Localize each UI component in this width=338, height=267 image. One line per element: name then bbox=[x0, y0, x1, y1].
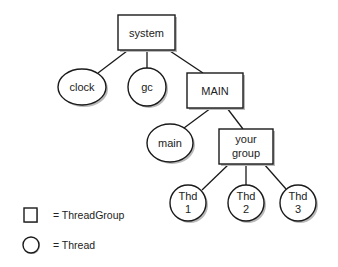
legend-thread-label: = Thread bbox=[53, 239, 95, 251]
legend-item-threadgroup: = ThreadGroup bbox=[24, 208, 124, 223]
node-gc: gc bbox=[128, 68, 168, 108]
legend-item-thread: = Thread bbox=[23, 237, 95, 254]
node-main-thread: main bbox=[147, 124, 195, 164]
thread-group-tree-diagram: system clock gc MAIN main your group Thd… bbox=[0, 0, 338, 267]
edge-system-clock bbox=[98, 51, 127, 73]
square-icon-outline bbox=[24, 208, 37, 222]
node-your-group-line2: group bbox=[232, 147, 260, 159]
node-main-thread-label: main bbox=[158, 137, 182, 149]
legend-threadgroup-label: = ThreadGroup bbox=[53, 209, 124, 221]
node-thd-1: Thd 1 bbox=[170, 185, 208, 223]
node-clock-label: clock bbox=[69, 81, 95, 93]
edge-main-group-main bbox=[184, 108, 211, 128]
edge-main-group-yourgroup bbox=[227, 108, 243, 129]
node-thd-3: Thd 3 bbox=[280, 185, 318, 223]
node-main-group: MAIN bbox=[187, 73, 245, 110]
node-your-group-line1: your bbox=[235, 133, 257, 145]
node-main-group-label: MAIN bbox=[201, 85, 229, 97]
node-clock: clock bbox=[58, 69, 108, 107]
node-thd-3-line2: 3 bbox=[295, 203, 301, 215]
node-system: system bbox=[118, 15, 177, 52]
node-system-label: system bbox=[129, 27, 164, 39]
node-thd-2: Thd 2 bbox=[228, 185, 266, 223]
node-gc-label: gc bbox=[141, 81, 153, 93]
node-your-group: your group bbox=[219, 129, 275, 166]
node-thd-1-line1: Thd bbox=[179, 190, 198, 202]
legend: = ThreadGroup = Thread bbox=[23, 208, 124, 254]
node-thd-1-line2: 1 bbox=[185, 203, 191, 215]
node-thd-3-line1: Thd bbox=[289, 190, 308, 202]
node-thd-2-line1: Thd bbox=[237, 190, 256, 202]
edges bbox=[98, 51, 286, 190]
circle-icon-outline bbox=[23, 237, 39, 253]
node-thd-2-line2: 2 bbox=[243, 203, 249, 215]
edge-yourgroup-thd3 bbox=[264, 164, 286, 189]
edge-system-main-group bbox=[170, 51, 203, 73]
edge-yourgroup-thd1 bbox=[202, 164, 229, 190]
